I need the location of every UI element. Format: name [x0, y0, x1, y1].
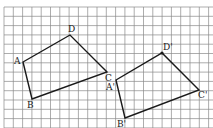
quadrilateral-abcd: [23, 35, 107, 99]
vertex-label-a: A: [13, 56, 21, 66]
vertex-label-b: B: [27, 100, 34, 110]
grid-diagram: ABCD A'B'C'D': [0, 0, 213, 128]
vertex-label-c-prime: C': [198, 90, 207, 100]
labels-abcd-prime: A'B'C'D': [105, 42, 207, 128]
vertex-label-d: D: [68, 24, 75, 34]
vertex-label-a-prime: A': [105, 82, 115, 92]
vertex-label-b-prime: B': [117, 119, 126, 128]
vertex-label-d-prime: D': [163, 42, 173, 52]
grid: [4, 7, 213, 128]
